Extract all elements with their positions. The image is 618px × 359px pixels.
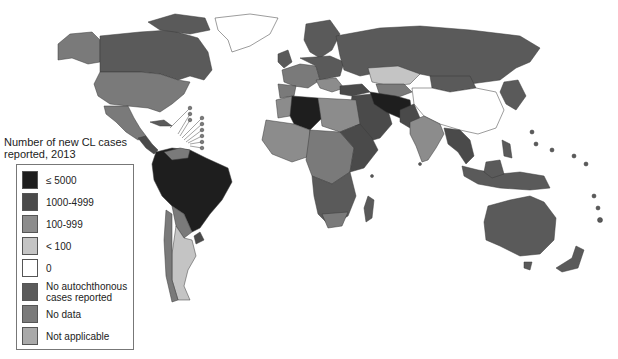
legend-title: Number of new CL cases reported, 2013 [4, 136, 164, 160]
legend-item-1000-4999: 1000-4999 [22, 193, 94, 211]
legend-swatch [22, 193, 38, 211]
region-western-europe [282, 64, 320, 88]
region-tasmania [524, 262, 532, 270]
legend-item-lt100: < 100 [22, 237, 71, 255]
region-uruguay [194, 232, 204, 244]
caribbean-callouts [170, 106, 204, 150]
legend-label-line1: No autochthonous [46, 281, 127, 292]
region-madagascar [364, 196, 374, 222]
region-mexico [104, 106, 146, 140]
region-alaska [58, 32, 100, 64]
region-australia [484, 196, 556, 256]
legend-item-no-autochthonous: No autochthonous cases reported [22, 281, 127, 303]
legend-label: ≤ 5000 [46, 175, 77, 186]
legend-label: < 100 [46, 241, 71, 252]
legend-label-line2: cases reported [46, 292, 112, 303]
legend-title-line2: reported, 2013 [4, 148, 164, 160]
legend-item-no-data: No data [22, 305, 81, 323]
legend-item-gte5000: ≤ 5000 [22, 171, 77, 189]
legend-label: Not applicable [46, 331, 109, 342]
legend-swatch [22, 283, 38, 301]
region-korea-japan [500, 80, 526, 110]
legend-label: 1000-4999 [46, 197, 94, 208]
region-indonesia [462, 166, 550, 190]
region-south-america-north [152, 148, 232, 232]
legend-swatch [22, 305, 38, 323]
region-south-africa [322, 212, 348, 228]
legend-item-zero: 0 [22, 259, 52, 277]
legend-swatch [22, 171, 38, 189]
legend: ≤ 5000 1000-4999 100-999 < 100 0 No auto… [16, 164, 134, 350]
region-greenland [215, 14, 278, 52]
legend-item-100-999: 100-999 [22, 215, 83, 233]
legend-label: 100-999 [46, 219, 83, 230]
legend-item-not-applicable: Not applicable [22, 327, 109, 345]
region-russia [336, 26, 540, 84]
region-turkey [340, 84, 370, 96]
legend-label: No autochthonous cases reported [46, 281, 127, 303]
region-new-zealand [556, 246, 584, 272]
legend-swatch [22, 215, 38, 233]
legend-label: 0 [46, 263, 52, 274]
legend-swatch [22, 327, 38, 345]
legend-title-line1: Number of new CL cases [4, 136, 164, 148]
region-philippines [502, 140, 512, 158]
legend-swatch [22, 259, 38, 277]
legend-swatch [22, 237, 38, 255]
region-scandinavia [304, 20, 340, 58]
region-southeast-asia [444, 128, 474, 164]
region-uk [278, 50, 292, 68]
legend-label: No data [46, 309, 81, 320]
region-cuba [150, 120, 172, 126]
